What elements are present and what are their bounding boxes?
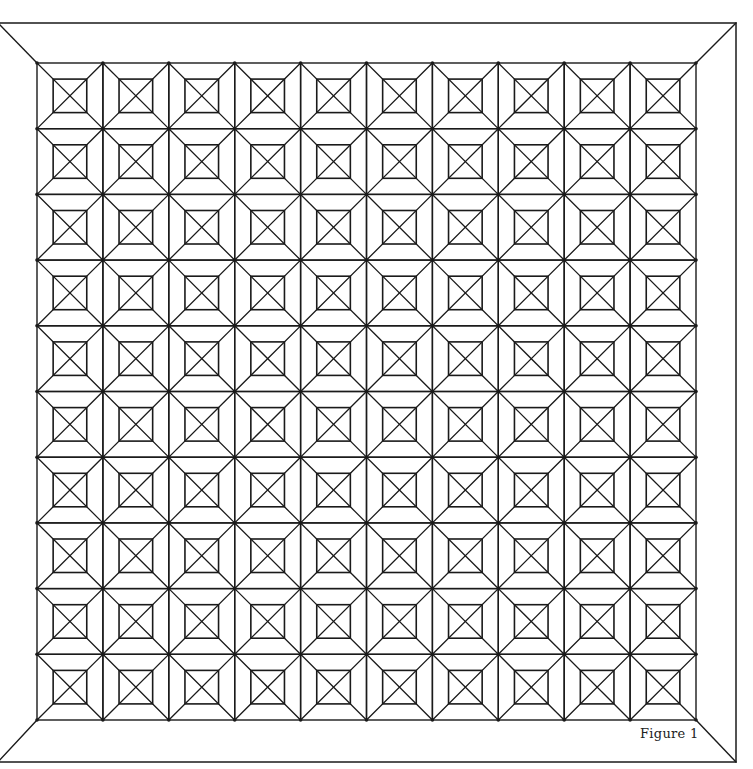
intersection-dot bbox=[694, 193, 698, 197]
mitre-line-top-right bbox=[696, 23, 736, 63]
grid-cell bbox=[630, 260, 696, 326]
grid-cell bbox=[37, 260, 103, 326]
grid-cell bbox=[630, 129, 696, 195]
intersection-dot bbox=[365, 258, 369, 262]
intersection-dot bbox=[365, 521, 369, 525]
intersection-dot bbox=[167, 587, 171, 591]
intersection-dot bbox=[628, 61, 632, 65]
intersection-dot bbox=[628, 258, 632, 262]
grid-cell bbox=[103, 654, 169, 720]
quilt-pattern-diagram bbox=[0, 0, 753, 769]
intersection-dot bbox=[167, 61, 171, 65]
intersection-dot bbox=[562, 455, 566, 459]
grid-cell bbox=[169, 260, 235, 326]
intersection-dot bbox=[431, 390, 435, 394]
mitre-line-bottom-left bbox=[0, 720, 37, 762]
intersection-dot bbox=[628, 193, 632, 197]
grid-cell bbox=[37, 457, 103, 523]
intersection-dot bbox=[101, 455, 105, 459]
intersection-dot bbox=[694, 455, 698, 459]
intersection-dot bbox=[497, 127, 501, 131]
intersection-dot bbox=[694, 521, 698, 525]
grid-cell bbox=[103, 260, 169, 326]
intersection-dot bbox=[365, 653, 369, 657]
intersection-dot bbox=[233, 718, 237, 722]
intersection-dot bbox=[233, 587, 237, 591]
grid-cell bbox=[564, 194, 630, 260]
intersection-dot bbox=[365, 455, 369, 459]
grid-cell bbox=[169, 129, 235, 195]
grid-cell bbox=[235, 129, 301, 195]
intersection-dot bbox=[35, 258, 39, 262]
grid-cell bbox=[169, 326, 235, 392]
intersection-dot bbox=[233, 653, 237, 657]
grid-cell bbox=[367, 129, 433, 195]
intersection-dot bbox=[299, 324, 303, 328]
intersection-dot bbox=[35, 127, 39, 131]
intersection-dot bbox=[694, 61, 698, 65]
grid-cell bbox=[235, 457, 301, 523]
grid-cell bbox=[169, 392, 235, 458]
intersection-dot bbox=[101, 587, 105, 591]
intersection-dot bbox=[562, 521, 566, 525]
intersection-dot bbox=[497, 193, 501, 197]
intersection-dot bbox=[628, 653, 632, 657]
intersection-dot bbox=[167, 718, 171, 722]
intersection-dot bbox=[365, 127, 369, 131]
grid-cell bbox=[235, 260, 301, 326]
intersection-dot bbox=[101, 521, 105, 525]
intersection-dot bbox=[431, 521, 435, 525]
grid-cell bbox=[630, 589, 696, 655]
grid-cell bbox=[367, 326, 433, 392]
intersection-dot bbox=[562, 193, 566, 197]
grid-cell bbox=[103, 194, 169, 260]
grid-cell bbox=[37, 589, 103, 655]
intersection-dot bbox=[167, 127, 171, 131]
intersection-dot bbox=[101, 324, 105, 328]
intersection-dot bbox=[628, 324, 632, 328]
intersection-dot bbox=[365, 193, 369, 197]
intersection-dot bbox=[299, 521, 303, 525]
intersection-dot bbox=[299, 390, 303, 394]
intersection-dot bbox=[101, 61, 105, 65]
intersection-dot bbox=[497, 455, 501, 459]
intersection-dot bbox=[233, 193, 237, 197]
grid-cell bbox=[630, 392, 696, 458]
intersection-dot bbox=[562, 587, 566, 591]
figure-caption: Figure 1 bbox=[640, 726, 699, 741]
grid-cell bbox=[498, 194, 564, 260]
intersection-dot bbox=[35, 718, 39, 722]
intersection-dot bbox=[694, 127, 698, 131]
mitre-line-top-left bbox=[0, 23, 37, 63]
grid-cell bbox=[103, 326, 169, 392]
grid-cell bbox=[564, 129, 630, 195]
intersection-dot bbox=[497, 324, 501, 328]
intersection-dot bbox=[233, 127, 237, 131]
grid-cell bbox=[169, 589, 235, 655]
grid-cell bbox=[498, 654, 564, 720]
grid-cell bbox=[367, 457, 433, 523]
intersection-dot bbox=[167, 324, 171, 328]
grid-cell bbox=[498, 392, 564, 458]
grid-cell bbox=[432, 260, 498, 326]
intersection-dot bbox=[694, 587, 698, 591]
grid-cell bbox=[432, 63, 498, 129]
grid-cell bbox=[37, 326, 103, 392]
grid-cell bbox=[301, 457, 367, 523]
intersection-dot bbox=[35, 193, 39, 197]
grid-cell bbox=[235, 194, 301, 260]
intersection-dot bbox=[101, 127, 105, 131]
grid-cell bbox=[301, 589, 367, 655]
intersection-dot bbox=[562, 324, 566, 328]
grid-cell bbox=[630, 194, 696, 260]
intersection-dot bbox=[299, 455, 303, 459]
intersection-dot bbox=[628, 390, 632, 394]
grid-cell bbox=[498, 63, 564, 129]
intersection-dot bbox=[35, 455, 39, 459]
intersection-dot bbox=[431, 61, 435, 65]
intersection-dot bbox=[431, 324, 435, 328]
intersection-dot bbox=[562, 61, 566, 65]
grid-cell bbox=[235, 63, 301, 129]
intersection-dot bbox=[233, 521, 237, 525]
intersection-dot bbox=[694, 324, 698, 328]
